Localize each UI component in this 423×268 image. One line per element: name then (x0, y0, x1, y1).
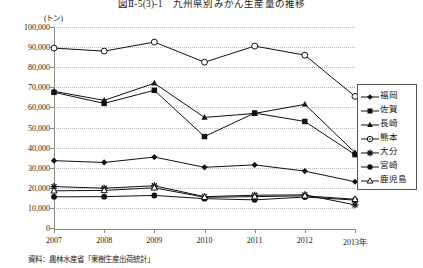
chart-container: 図Ⅱ-5(3)-1 九州県別みかん生産量の推移 (トン) 010,00020,0… (0, 0, 423, 268)
y-axis-tick-label: 40,000 (0, 143, 50, 152)
triangle-open-marker (252, 193, 258, 199)
x-axis-tick-mark (154, 229, 155, 233)
x-axis-tick-mark (54, 229, 55, 233)
circle-open-marker (252, 43, 258, 49)
circle-dot-marker (360, 131, 380, 143)
series-鹿児島 (51, 184, 358, 201)
diamond-marker (51, 158, 57, 164)
diamond-marker (367, 94, 373, 100)
x-axis-tick-mark (305, 229, 306, 233)
square-marker (152, 88, 157, 93)
x-axis-tick-label: 2013年 (343, 236, 367, 247)
chart-title: 図Ⅱ-5(3)-1 九州県別みかん生産量の推移 (0, 0, 423, 10)
diamond-marker (360, 89, 380, 101)
circle-open-marker (302, 52, 308, 58)
circle-dot-marker (367, 136, 372, 141)
y-axis-tick-label: 10,000 (0, 203, 50, 212)
open-triangle-marker (360, 173, 380, 185)
x-axis-tick-mark (104, 229, 105, 233)
y-axis-tick-label: 70,000 (0, 83, 50, 92)
circle-filled-marker (101, 194, 107, 200)
square-marker (302, 119, 307, 124)
x-axis-tick-label: 2011 (247, 236, 263, 245)
y-axis-tick-label: 80,000 (0, 63, 50, 72)
legend-label: 長崎 (380, 117, 398, 129)
x-axis-tick-label: 2007 (46, 236, 62, 245)
y-axis-unit-label: (トン) (44, 12, 63, 23)
legend-item-福岡[interactable]: 福岡 (358, 88, 416, 102)
y-axis-tick-label: 50,000 (0, 123, 50, 132)
square-marker (367, 108, 372, 113)
source-note: 資料：農林水産省「果樹生産出荷統計」 (28, 253, 154, 264)
filled-circle-marker (360, 159, 380, 171)
triangle-open-marker (367, 178, 373, 183)
triangle-marker (151, 80, 157, 86)
square-marker (360, 103, 380, 115)
legend-label: 佐賀 (380, 103, 398, 115)
y-axis-tick-label: 90,000 (0, 43, 50, 52)
asterisk-marker (367, 150, 373, 156)
x-axis-tick-label: 2012 (297, 236, 313, 245)
legend-item-熊本[interactable]: 熊本 (358, 130, 416, 144)
legend-item-佐賀[interactable]: 佐賀 (358, 102, 416, 116)
series-熊本 (51, 39, 358, 99)
circle-open-marker (202, 59, 208, 65)
series-佐賀 (51, 88, 357, 158)
legend-label: 大分 (380, 145, 398, 157)
legend-item-鹿児島[interactable]: 鹿児島 (358, 172, 416, 186)
diamond-marker (252, 162, 258, 168)
legend-label: 福岡 (380, 89, 398, 101)
diamond-marker (302, 168, 308, 174)
square-marker (202, 134, 207, 139)
y-axis-tick-label: 100,000 (0, 23, 50, 32)
legend-label: 熊本 (380, 131, 398, 143)
y-axis-tick-label: 30,000 (0, 163, 50, 172)
chart-legend: 福岡佐賀長崎熊本大分宮崎鹿児島 (357, 84, 417, 190)
circle-open-marker (101, 48, 107, 54)
triangle-marker (360, 117, 380, 129)
circle-filled-marker (51, 194, 57, 200)
circle-open-marker (151, 39, 157, 45)
y-axis-tick-label: 20,000 (0, 183, 50, 192)
x-axis-tick-label: 2009 (146, 236, 162, 245)
legend-label: 鹿児島 (380, 173, 407, 185)
legend-item-大分[interactable]: 大分 (358, 144, 416, 158)
triangle-marker (367, 122, 373, 127)
asterisk-marker (360, 145, 380, 157)
triangle-marker (302, 101, 308, 107)
legend-item-長崎[interactable]: 長崎 (358, 116, 416, 130)
diamond-marker (101, 159, 107, 165)
legend-item-宮崎[interactable]: 宮崎 (358, 158, 416, 172)
x-axis-tick-mark (205, 229, 206, 233)
circle-filled-marker (151, 192, 157, 198)
y-axis-tick-label: 0 (0, 224, 50, 233)
circle-open-marker (51, 45, 57, 51)
series-line (54, 42, 355, 96)
series-長崎 (51, 80, 358, 155)
diamond-marker (151, 154, 157, 160)
x-axis-tick-mark (355, 229, 356, 233)
x-axis-tick-label: 2008 (96, 236, 112, 245)
circle-filled-marker (367, 164, 372, 169)
x-axis-tick-mark (255, 229, 256, 233)
series-plot-area (54, 27, 355, 228)
x-axis-tick-label: 2010 (197, 236, 213, 245)
y-axis-tick-label: 60,000 (0, 103, 50, 112)
series-福岡 (51, 154, 358, 185)
diamond-marker (201, 164, 207, 170)
legend-label: 宮崎 (380, 159, 398, 171)
